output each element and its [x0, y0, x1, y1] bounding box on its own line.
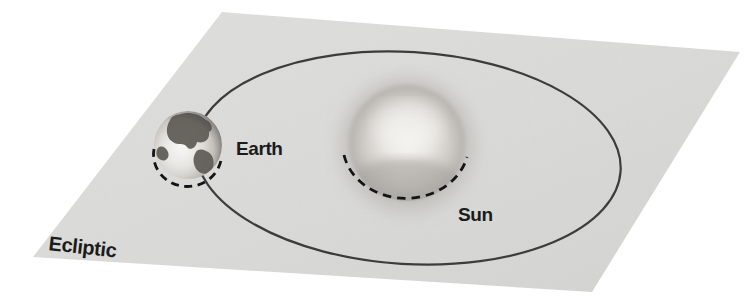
ecliptic-plane-diagram: Earth Sun Ecliptic — [0, 0, 752, 303]
earth-label: Earth — [236, 139, 283, 158]
sun-label: Sun — [458, 205, 493, 224]
